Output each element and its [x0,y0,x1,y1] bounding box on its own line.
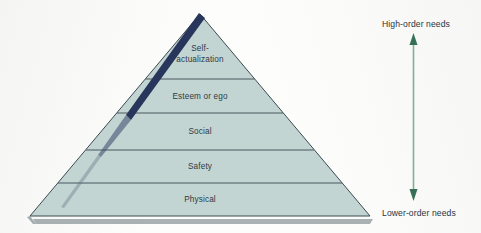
needs-hierarchy-figure: Self- actualization Esteem or ego Social… [0,0,481,233]
tier-label-self-actualization-line2: actualization [176,55,223,66]
tier-label-self-actualization: Self- actualization [176,44,223,65]
tier-label-self-actualization-line1: Self- [176,44,223,55]
tier-label-social: Social [188,127,211,138]
needs-arrow-head-up-icon [410,33,418,45]
tier-label-esteem-or-ego: Esteem or ego [172,92,227,103]
tier-label-safety: Safety [188,162,212,173]
tier-label-physical: Physical [184,195,216,206]
high-order-needs-label: High-order needs [382,19,450,29]
pyramid-base-shadow [33,219,373,224]
lower-order-needs-label: Lower-order needs [382,208,456,218]
needs-arrow-head-down-icon [410,189,418,201]
pyramid-graphic [0,0,481,233]
